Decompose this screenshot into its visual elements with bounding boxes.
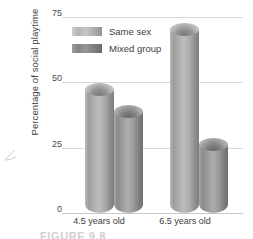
gridline-75 <box>62 17 243 18</box>
x-tick-label-4-5-years: 4.5 years old <box>54 216 144 226</box>
bar-top-ellipse <box>85 83 114 96</box>
bar-mixed-group-4-5-years <box>114 111 143 213</box>
bar-body <box>199 144 228 213</box>
axis-baseline <box>62 213 243 214</box>
y-tick-label-50: 50 <box>36 73 62 83</box>
x-tick-label-6-5-years: 6.5 years old <box>140 216 230 226</box>
bar-body <box>114 111 143 213</box>
figure-chart: Percentage of social playtime 75 50 25 0 <box>0 0 253 239</box>
y-tick-label-0: 0 <box>36 204 62 214</box>
bar-body <box>85 89 114 213</box>
scan-artifact-mark <box>4 148 20 164</box>
figure-caption: FIGURE 9.8 <box>40 230 106 239</box>
legend-label-same-sex: Same sex <box>109 26 151 37</box>
bar-top-ellipse <box>114 105 143 118</box>
gridline-50 <box>62 82 243 83</box>
legend-label-mixed-group: Mixed group <box>109 43 161 54</box>
bar-same-sex-4-5-years <box>85 89 114 213</box>
y-tick-label-25: 25 <box>36 139 62 149</box>
legend-item-mixed-group: Mixed group <box>72 41 192 55</box>
legend-item-same-sex: Same sex <box>72 24 192 38</box>
y-tick-label-75: 75 <box>36 8 62 18</box>
legend-swatch-mixed-group <box>72 44 102 53</box>
bar-mixed-group-6-5-years <box>199 144 228 213</box>
chart-legend: Same sex Mixed group <box>72 24 192 58</box>
bar-top-ellipse <box>199 138 228 151</box>
legend-swatch-same-sex <box>72 27 102 36</box>
